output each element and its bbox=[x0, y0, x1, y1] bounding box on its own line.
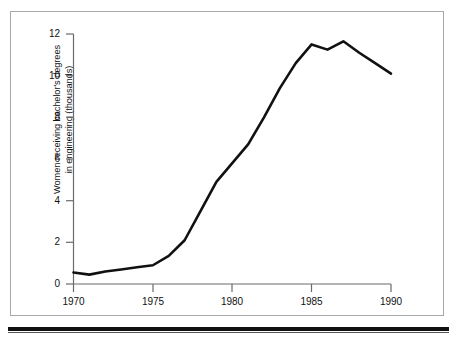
y-tick-label-0: 0 bbox=[38, 278, 60, 289]
y-tick-label-8: 8 bbox=[38, 111, 60, 122]
x-tick-label-1975: 1975 bbox=[133, 296, 173, 307]
bottom-rule-thick bbox=[8, 327, 449, 331]
x-tick-label-1990: 1990 bbox=[371, 296, 411, 307]
chart-page: Women receiving bachelor's degreesin eng… bbox=[0, 0, 453, 342]
chart-svg bbox=[11, 12, 445, 317]
bottom-rule-thin bbox=[8, 332, 449, 333]
plot-canvas bbox=[11, 12, 445, 317]
y-tick-label-4: 4 bbox=[38, 195, 60, 206]
y-axis-ticks bbox=[66, 34, 74, 284]
y-tick-label-10: 10 bbox=[38, 70, 60, 81]
figure-frame: Women receiving bachelor's degreesin eng… bbox=[10, 11, 444, 316]
y-tick-label-2: 2 bbox=[38, 236, 60, 247]
x-tick-label-1985: 1985 bbox=[292, 296, 332, 307]
x-axis-ticks bbox=[74, 284, 392, 292]
y-tick-label-6: 6 bbox=[38, 153, 60, 164]
axis-lines bbox=[74, 34, 392, 284]
data-series-line bbox=[74, 41, 392, 274]
x-tick-label-1970: 1970 bbox=[54, 296, 94, 307]
x-tick-label-1980: 1980 bbox=[212, 296, 252, 307]
y-tick-label-12: 12 bbox=[38, 28, 60, 39]
